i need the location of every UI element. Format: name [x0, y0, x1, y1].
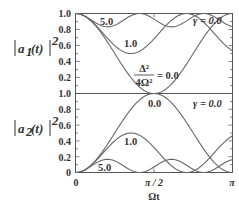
- top-gamma-label: γ = 0.0: [193, 15, 222, 26]
- fraction-denominator: 4Ω²: [136, 77, 153, 88]
- bottom-label-0.0: 0.0: [148, 98, 161, 109]
- ytick-top-0.2: 0.2: [59, 72, 72, 83]
- xtick-pi-half: π / 2: [145, 177, 163, 188]
- y-axis-label-bottom: a 2 (t) 2: [15, 113, 59, 139]
- ylabel-bottom-main: a: [18, 121, 25, 136]
- ytick-bottom-0: 0: [66, 167, 71, 178]
- bottom-gamma-label: γ = 0.0: [193, 98, 222, 109]
- top-y-tick-labels: 1.0 0.8 0.6 0.4 0.2: [59, 8, 72, 83]
- ylabel-top-arg: (t): [31, 41, 43, 56]
- bottom-label-1.0: 1.0: [124, 136, 137, 147]
- ytick-top-1.0: 1.0: [59, 8, 72, 19]
- rabi-oscillation-chart: 1.0 0.8 0.6 0.4 0.2 1.0 0.8 0.6 0.4 0.2 …: [0, 0, 239, 213]
- ytick-top-0.4: 0.4: [59, 56, 72, 67]
- xtick-0: 0: [74, 177, 79, 188]
- fraction-numerator: Δ²: [139, 63, 149, 74]
- ylabel-top-sup: 2: [51, 33, 59, 48]
- x-tick-labels: 0 π / 2 π: [74, 177, 236, 188]
- ytick-bottom-0.8: 0.8: [59, 104, 72, 115]
- ytick-top-0.8: 0.8: [59, 24, 72, 35]
- y-axis-label-top: a 1 (t) 2: [15, 33, 59, 59]
- ylabel-bottom-sup: 2: [51, 113, 59, 128]
- bottom-label-5.0: 5.0: [98, 162, 111, 173]
- ytick-bottom-0.2: 0.2: [59, 152, 72, 163]
- x-axis-label: Ωt: [148, 191, 160, 202]
- ylabel-bottom-arg: (t): [31, 121, 43, 136]
- top-label-5.0: 5.0: [100, 16, 113, 27]
- ylabel-top-main: a: [18, 41, 25, 56]
- ytick-top-0.6: 0.6: [59, 40, 72, 51]
- ytick-bottom-0.4: 0.4: [59, 136, 72, 147]
- ytick-bottom-0.6: 0.6: [59, 120, 72, 131]
- top-label-1.0: 1.0: [124, 38, 137, 49]
- xtick-pi: π: [229, 177, 235, 188]
- ytick-bottom-1.0: 1.0: [59, 88, 72, 99]
- fraction-value: = 0.0: [157, 70, 179, 81]
- bottom-y-tick-labels: 1.0 0.8 0.6 0.4 0.2 0: [59, 88, 72, 178]
